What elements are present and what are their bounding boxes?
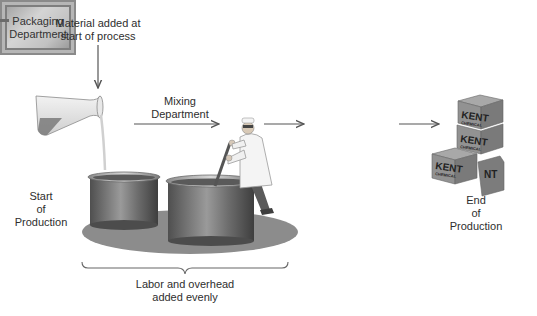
process-illustration: KENT CHEMICAL KENT CHEMICAL KENT CHEMICA… xyxy=(0,0,537,316)
start-of-production-label: Start of Production xyxy=(10,190,72,229)
kent-chemical-crates-icon: KENT CHEMICAL KENT CHEMICAL KENT CHEMICA… xyxy=(432,95,504,196)
end-of-production-label: End of Production xyxy=(440,194,512,233)
mixing-department-label: Mixing Department xyxy=(130,95,230,121)
labor-overhead-brace xyxy=(82,262,288,274)
material-added-label: Material added at start of process xyxy=(48,17,148,43)
flask-icon xyxy=(36,96,105,170)
vat-start-icon xyxy=(88,172,160,230)
labor-overhead-label: Labor and overhead added evenly xyxy=(125,278,245,304)
svg-text:NT: NT xyxy=(484,169,497,180)
